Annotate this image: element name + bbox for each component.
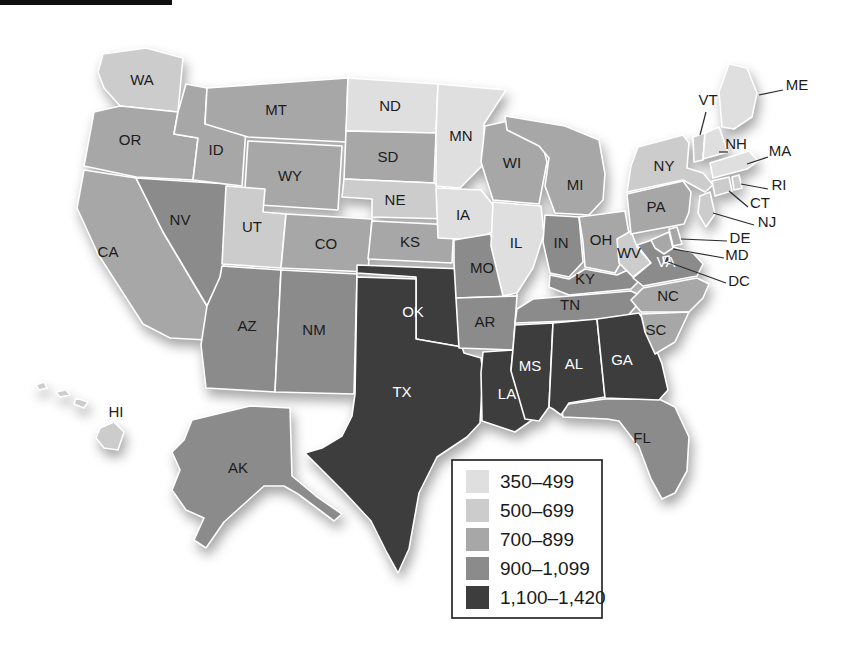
state-HI-island-1 — [36, 382, 47, 390]
label-HI: HI — [109, 403, 124, 420]
label-UT: UT — [242, 218, 262, 235]
label-ND: ND — [379, 97, 401, 114]
legend-label-1100-1420: 1,100–1,420 — [500, 587, 606, 608]
state-ME — [719, 64, 757, 129]
label-AL: AL — [565, 355, 583, 372]
label-WA: WA — [130, 71, 154, 88]
legend-label-500-699: 500–699 — [500, 500, 574, 521]
leader-line-ME — [759, 90, 783, 95]
leader-line-RI — [741, 184, 768, 189]
label-OR: OR — [119, 131, 142, 148]
legend-item-1: 350–499 — [466, 470, 574, 493]
label-MT: MT — [265, 101, 287, 118]
leader-line-NJ — [713, 213, 754, 225]
label-TX: TX — [392, 383, 411, 400]
label-KS: KS — [400, 233, 420, 250]
callout-DC: DC — [728, 272, 750, 289]
label-WV: WV — [617, 244, 641, 261]
state-AK — [172, 406, 342, 548]
state-NJ — [698, 192, 715, 227]
leader-line-VT — [700, 112, 706, 135]
label-WI: WI — [503, 154, 521, 171]
label-NC: NC — [657, 287, 679, 304]
label-OK: OK — [402, 303, 424, 320]
label-ID: ID — [209, 141, 224, 158]
state-RI — [732, 175, 742, 190]
label-MO: MO — [470, 259, 494, 276]
scan-artifact-bar — [0, 0, 172, 5]
callout-DE: DE — [730, 229, 751, 246]
label-GA: GA — [611, 351, 633, 368]
label-PA: PA — [647, 198, 666, 215]
label-AR: AR — [475, 313, 496, 330]
label-OH: OH — [590, 231, 613, 248]
legend-label-700-899: 700–899 — [500, 529, 574, 550]
legend: 350–499 500–699 700–899 900–1,099 1,100–… — [452, 460, 606, 618]
label-WY: WY — [278, 167, 302, 184]
callout-CT: CT — [750, 194, 770, 211]
us-choropleth-map: WA OR CA NV ID MT WY UT CO AZ NM ND SD N… — [0, 0, 860, 659]
label-NM: NM — [302, 321, 325, 338]
legend-swatch-500-699 — [466, 499, 489, 522]
legend-label-900-1099: 900–1,099 — [500, 558, 590, 579]
state-CT — [712, 177, 732, 196]
label-AZ: AZ — [237, 317, 256, 334]
label-FL: FL — [633, 429, 651, 446]
label-NY: NY — [654, 157, 675, 174]
legend-item-5: 1,100–1,420 — [466, 586, 606, 609]
callout-NH: NH — [725, 135, 747, 152]
label-VA: VA — [657, 253, 676, 270]
callout-MD: MD — [725, 246, 748, 263]
callout-RI: RI — [772, 176, 787, 193]
label-NV: NV — [170, 211, 191, 228]
legend-label-350-499: 350–499 — [500, 471, 574, 492]
label-IA: IA — [456, 206, 470, 223]
label-TN: TN — [560, 296, 580, 313]
state-HI-island-4 — [96, 422, 124, 450]
label-KY: KY — [575, 270, 595, 287]
label-SD: SD — [378, 148, 399, 165]
label-SC: SC — [646, 321, 667, 338]
callout-NJ: NJ — [758, 213, 776, 230]
leader-line-DE — [681, 239, 727, 241]
legend-item-3: 700–899 — [466, 528, 574, 551]
label-LA: LA — [498, 385, 516, 402]
state-HI-island-2 — [56, 390, 70, 397]
state-HI-island-3 — [74, 398, 88, 408]
label-CA: CA — [98, 243, 119, 260]
leader-line-CT — [729, 191, 748, 207]
label-IN: IN — [554, 234, 569, 251]
label-CO: CO — [315, 235, 338, 252]
callout-ME: ME — [786, 76, 809, 93]
legend-swatch-900-1099 — [466, 557, 489, 580]
label-MN: MN — [449, 127, 472, 144]
label-IL: IL — [510, 234, 523, 251]
legend-swatch-700-899 — [466, 528, 489, 551]
legend-item-2: 500–699 — [466, 499, 574, 522]
label-MS: MS — [519, 357, 542, 374]
legend-swatch-1100-1420 — [466, 586, 489, 609]
states — [36, 48, 758, 573]
label-AK: AK — [228, 459, 248, 476]
callout-VT: VT — [698, 91, 717, 108]
callout-MA: MA — [769, 142, 792, 159]
label-MI: MI — [567, 176, 584, 193]
legend-item-4: 900–1,099 — [466, 557, 590, 580]
legend-swatch-350-499 — [466, 470, 489, 493]
map-landmass — [36, 48, 758, 573]
label-NE: NE — [385, 191, 406, 208]
figure-us-choropleth: WA OR CA NV ID MT WY UT CO AZ NM ND SD N… — [0, 0, 860, 659]
